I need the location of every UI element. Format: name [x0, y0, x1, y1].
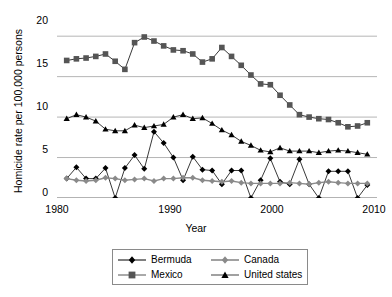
plot-area — [57, 20, 377, 198]
x-tick-1980: 1980 — [37, 203, 77, 215]
x-tick-1990: 1990 — [150, 203, 190, 215]
chart-legend: Bermuda Canada Mexico United states — [112, 249, 308, 285]
legend-item-canada: Canada — [210, 254, 303, 266]
x-tick-2000: 2000 — [252, 203, 292, 215]
series-united-states — [64, 112, 371, 157]
x-axis-tick-labels: 1980 1990 2000 2010 — [0, 203, 392, 219]
legend-label-bermuda: Bermuda — [151, 254, 192, 265]
y-tick-0: 0 — [24, 187, 48, 197]
legend-item-bermuda: Bermuda — [117, 254, 210, 266]
legend-item-mexico: Mexico — [117, 269, 210, 281]
legend-marker-bermuda-diamond-icon — [117, 254, 147, 266]
legend-label-canada: Canada — [244, 254, 279, 265]
legend-marker-canada-diamond-icon — [210, 254, 240, 266]
legend-marker-mexico-square-icon — [117, 269, 147, 281]
legend-marker-united-states-triangle-icon — [210, 269, 240, 281]
homicide-rate-line-chart: Homicide rate per 100,000 persons 20 15 … — [0, 0, 392, 297]
x-axis-label: Year — [0, 222, 392, 234]
series-bermuda — [64, 129, 371, 198]
x-tick-2010: 2010 — [354, 203, 392, 215]
y-tick-15: 15 — [24, 58, 48, 68]
plot-svg — [57, 20, 377, 198]
y-tick-5: 5 — [24, 144, 48, 154]
legend-label-mexico: Mexico — [151, 269, 183, 280]
legend-label-united-states: United states — [244, 269, 302, 280]
legend-item-united-states: United states — [210, 269, 303, 281]
y-tick-20: 20 — [24, 15, 48, 25]
series-mexico — [64, 34, 370, 129]
y-tick-10: 10 — [24, 101, 48, 111]
y-axis-tick-labels: 20 15 10 5 0 — [22, 0, 48, 297]
